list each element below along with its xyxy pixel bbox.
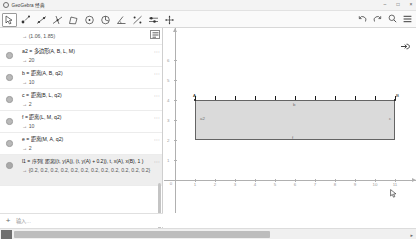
algebra-row[interactable]: ⋮ a2 = 多边形(A, B, L, M) → 20 bbox=[0, 45, 162, 67]
row-menu-icon[interactable]: ⋮ bbox=[154, 93, 159, 99]
visibility-toggle-icon[interactable] bbox=[6, 162, 13, 169]
algebra-row[interactable]: → (1.06, 1.85) bbox=[0, 28, 162, 45]
sequence-segment bbox=[295, 96, 296, 100]
visibility-toggle-icon[interactable] bbox=[6, 118, 13, 125]
row-expression: l1 = 序列( 距离((t, y(A)), (t, y(A) + 0.2)),… bbox=[22, 157, 150, 165]
horizontal-scrollbar[interactable]: ▸ bbox=[0, 228, 416, 239]
x-tick-label: 1 bbox=[194, 182, 196, 187]
y-tick bbox=[174, 100, 177, 101]
x-tick-label: 5 bbox=[274, 182, 276, 187]
row-expression: c = 距离(B, L, q2) bbox=[22, 91, 150, 99]
sequence-segment bbox=[235, 96, 236, 100]
point-tool[interactable] bbox=[18, 13, 33, 27]
sequence-segment bbox=[275, 96, 276, 100]
undo-icon[interactable] bbox=[357, 13, 368, 24]
edge-label-c: c bbox=[389, 116, 391, 121]
algebra-input-field[interactable]: 输入… bbox=[16, 217, 31, 224]
y-tick bbox=[174, 80, 177, 81]
y-tick bbox=[174, 140, 177, 141]
sequence-segment bbox=[215, 96, 216, 100]
minimize-button[interactable]: – bbox=[382, 1, 388, 7]
x-tick-label: 8 bbox=[334, 182, 336, 187]
angle-tool[interactable] bbox=[114, 13, 129, 27]
pointer-arrow-icon bbox=[390, 184, 397, 202]
sequence-segment bbox=[355, 96, 356, 100]
algebra-row[interactable]: ⋮ b = 距离(A, B, q2) → 10 bbox=[0, 67, 162, 89]
polygon-tool[interactable] bbox=[66, 13, 81, 27]
row-result: → {0.2, 0.2, 0.2, 0.2, 0.2, 0.2, 0.2, 0.… bbox=[22, 166, 150, 174]
x-axis-arrow-icon bbox=[412, 178, 416, 182]
row-menu-icon[interactable]: ⋮ bbox=[154, 49, 159, 55]
sequence-segment bbox=[195, 96, 196, 100]
visibility-toggle-icon[interactable] bbox=[6, 74, 13, 81]
row-menu-icon[interactable]: ⋮ bbox=[154, 137, 159, 143]
sequence-segment bbox=[315, 96, 316, 100]
x-tick-label: 4 bbox=[254, 182, 256, 187]
algebra-row[interactable]: ⋮ f = 距离(L, M, q2) → 10 bbox=[0, 111, 162, 133]
redo-icon[interactable] bbox=[372, 13, 383, 24]
move-tool[interactable] bbox=[2, 13, 17, 27]
sequence-segment bbox=[375, 96, 376, 100]
window-title: GeoGebra 经典 bbox=[12, 2, 46, 8]
x-axis bbox=[164, 180, 416, 181]
visibility-toggle-icon[interactable] bbox=[6, 52, 13, 59]
visibility-toggle-icon[interactable] bbox=[6, 140, 13, 147]
window-controls: – □ × bbox=[382, 1, 414, 7]
x-tick-label: 3 bbox=[234, 182, 236, 187]
row-menu-icon[interactable]: ⋮ bbox=[154, 115, 159, 121]
menu-icon[interactable] bbox=[402, 13, 413, 24]
row-expression: a2 = 多边形(A, B, L, M) bbox=[22, 47, 150, 55]
line-tool[interactable] bbox=[34, 13, 49, 27]
x-tick-label: 10 bbox=[373, 182, 378, 187]
algebra-row[interactable]: ⋮ c = 距离(B, L, q2) → 2 bbox=[0, 89, 162, 111]
toolbar-right-icons bbox=[357, 13, 413, 24]
scroll-left-icon[interactable] bbox=[1, 230, 12, 239]
perpendicular-line-tool[interactable] bbox=[50, 13, 65, 27]
close-button[interactable]: × bbox=[408, 1, 414, 7]
row-result: → 10 bbox=[22, 122, 150, 130]
add-input-button[interactable]: + bbox=[0, 216, 16, 226]
circle-tool[interactable] bbox=[82, 13, 97, 27]
search-icon[interactable] bbox=[387, 13, 398, 24]
y-tick-label: 3 bbox=[167, 118, 169, 123]
row-result: → (1.06, 1.85) bbox=[22, 32, 150, 40]
algebra-input-row[interactable]: + 输入… bbox=[0, 213, 163, 227]
x-tick-label: 7 bbox=[314, 182, 316, 187]
origin-label: 0 bbox=[170, 181, 172, 186]
y-tick-label: 2 bbox=[167, 138, 169, 143]
ellipse-tool[interactable] bbox=[98, 13, 113, 27]
algebra-row-selected[interactable]: ⋮ l1 = 序列( 距离((t, y(A)), (t, y(A) + 0.2)… bbox=[0, 155, 162, 186]
y-tick-label: 6 bbox=[167, 58, 169, 63]
x-tick-label: 9 bbox=[354, 182, 356, 187]
polygon-label: a2 bbox=[200, 116, 205, 121]
graphics-view[interactable]: 0 1 2 3 4 5 6 7 8 9 10 11 1 2 3 4 5 bbox=[164, 28, 416, 228]
horizontal-scrollbar-thumb[interactable] bbox=[14, 231, 270, 238]
algebra-row[interactable]: ⋮ e = 距离(M, A, q2) → 2 bbox=[0, 133, 162, 155]
maximize-button[interactable]: □ bbox=[395, 1, 401, 7]
row-result: → 10 bbox=[22, 78, 150, 86]
row-result: → 20 bbox=[22, 56, 150, 64]
y-tick-label: 4 bbox=[167, 98, 169, 103]
row-result: → 2 bbox=[22, 144, 150, 152]
geogebra-window: GeoGebra 经典 – □ × bbox=[0, 0, 416, 239]
sequence-segment bbox=[255, 96, 256, 100]
row-menu-icon[interactable]: ⋮ bbox=[154, 71, 159, 77]
algebra-description-icon[interactable] bbox=[150, 30, 160, 39]
sequence-segment bbox=[395, 96, 396, 100]
move-graphics-tool[interactable] bbox=[162, 13, 177, 27]
algebra-view: → (1.06, 1.85) ⋮ a2 = 多边形(A, B, L, M) → … bbox=[0, 28, 163, 228]
row-menu-icon[interactable]: ⋮ bbox=[154, 159, 159, 165]
reflect-tool[interactable] bbox=[130, 13, 145, 27]
row-expression: f = 距离(L, M, q2) bbox=[22, 113, 150, 121]
edge-label-b: b bbox=[293, 102, 295, 107]
y-tick bbox=[174, 120, 177, 121]
scroll-right-icon[interactable]: ▸ bbox=[410, 232, 413, 238]
slider-tool[interactable] bbox=[146, 13, 161, 27]
row-expression: b = 距离(A, B, q2) bbox=[22, 69, 150, 77]
y-tick bbox=[174, 60, 177, 61]
edge-label-e: f bbox=[292, 135, 293, 140]
pan-hand-icon[interactable] bbox=[400, 36, 410, 54]
row-result: → 2 bbox=[22, 100, 150, 108]
sequence-segment bbox=[335, 96, 336, 100]
visibility-toggle-icon[interactable] bbox=[6, 96, 13, 103]
